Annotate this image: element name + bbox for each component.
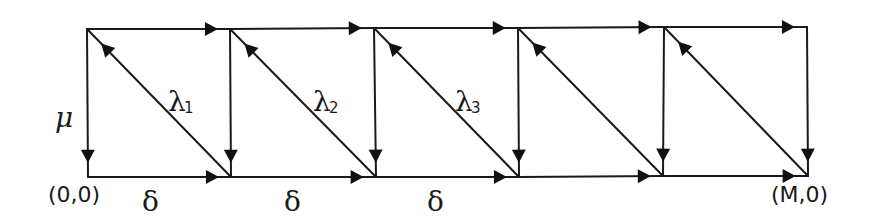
right-arrow-icon (783, 169, 796, 183)
right-arrow-icon (205, 22, 218, 36)
right-arrow-icon (493, 21, 506, 35)
right-arrow-icon (638, 20, 651, 34)
down-arrow-icon (369, 150, 383, 163)
svg-text:2: 2 (329, 99, 339, 117)
lambda-label-3: λ 3 (455, 85, 481, 118)
state-transition-diagram: (0,0) (M,0) μ δ δ δ λ 1 λ 2 λ 3 (0, 0, 884, 222)
down-arrow-icon (801, 149, 815, 162)
right-arrow-icon (638, 169, 651, 183)
right-arrow-icon (494, 170, 507, 184)
lambda-label-1: λ 1 (168, 85, 194, 118)
right-arrow-icon (782, 20, 795, 34)
end-state-label: (M,0) (771, 182, 828, 207)
right-arrow-icon (351, 170, 364, 184)
down-arrow-icon (81, 150, 95, 163)
down-arrow-icon (656, 149, 670, 162)
right-arrow-icon (349, 21, 362, 35)
origin-label: (0,0) (48, 182, 100, 207)
lambda-label-2: λ 2 (313, 85, 339, 118)
svg-text:1: 1 (184, 99, 194, 117)
down-arrow-icon (512, 150, 526, 163)
delta-label-3: δ (427, 185, 444, 218)
right-arrow-icon (206, 170, 219, 184)
down-arrow-icon (224, 150, 238, 163)
edges-layer (87, 27, 808, 177)
svg-text:3: 3 (471, 99, 481, 117)
delta-label-2: δ (284, 185, 301, 218)
mu-label: μ (55, 101, 73, 134)
delta-label-1: δ (142, 185, 159, 218)
